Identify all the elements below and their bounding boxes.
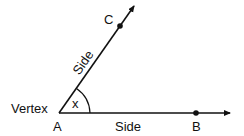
angle-x-label: x [72,97,79,110]
side-lower-label: Side [115,120,141,133]
point-c-dot [117,23,123,29]
vertex-label: Vertex [11,102,48,115]
point-a-label: A [53,120,62,133]
point-b-label: B [192,120,201,133]
ray-ac [59,6,134,113]
point-c-label: C [104,13,113,26]
point-b-dot [193,110,199,116]
